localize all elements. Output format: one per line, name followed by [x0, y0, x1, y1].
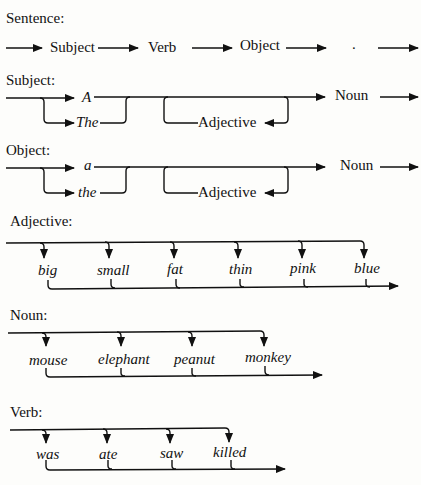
- object-adjective: Adjective: [198, 184, 256, 201]
- verb-word-killed: killed: [213, 444, 246, 461]
- subject-adjective: Adjective: [198, 114, 256, 131]
- subject-article-a: A: [82, 89, 91, 106]
- syntax-diagram-lines: [0, 0, 421, 485]
- verb-word-was: was: [36, 446, 59, 463]
- noun-word-peanut: peanut: [174, 351, 215, 368]
- noun-word-mouse: mouse: [29, 352, 67, 369]
- verb-title: Verb:: [10, 404, 43, 421]
- subject-noun: Noun: [335, 87, 368, 104]
- subject-article-the: The: [76, 114, 99, 131]
- adjective-word-blue: blue: [354, 260, 380, 277]
- sentence-title: Sentence:: [6, 10, 64, 27]
- object-noun: Noun: [340, 157, 373, 174]
- sentence-item-subject: Subject: [50, 39, 95, 56]
- object-article-the: the: [78, 184, 96, 201]
- object-article-a: a: [84, 157, 92, 174]
- adjective-title: Adjective:: [10, 213, 72, 230]
- noun-word-monkey: monkey: [245, 349, 291, 366]
- subject-title: Subject:: [6, 72, 55, 89]
- sentence-item-period: .: [352, 36, 356, 53]
- sentence-item-object: Object: [240, 37, 280, 54]
- noun-title: Noun:: [10, 307, 48, 324]
- object-title: Object:: [6, 142, 50, 159]
- noun-word-elephant: elephant: [98, 351, 150, 368]
- sentence-item-verb: Verb: [148, 39, 176, 56]
- adjective-word-small: small: [97, 262, 130, 279]
- adjective-word-big: big: [38, 262, 57, 279]
- adjective-word-fat: fat: [167, 261, 183, 278]
- adjective-word-pink: pink: [290, 260, 316, 277]
- adjective-word-thin: thin: [229, 261, 252, 278]
- verb-word-ate: ate: [99, 446, 117, 463]
- verb-word-saw: saw: [160, 445, 183, 462]
